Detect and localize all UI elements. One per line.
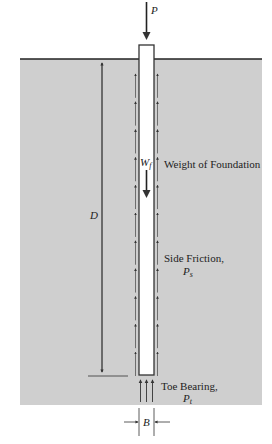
applied-load-label: P (150, 4, 158, 16)
pile-foundation (139, 45, 154, 375)
weight-of-foundation-text: Weight of Foundation (164, 158, 261, 170)
side-friction-text: Side Friction, (164, 252, 224, 264)
pile-foundation-diagram: P D Wf Weight of Foundation Side Frictio… (0, 0, 272, 444)
depth-label: D (89, 209, 98, 221)
toe-bearing-text: Toe Bearing, (161, 380, 218, 392)
width-label: B (143, 416, 150, 428)
